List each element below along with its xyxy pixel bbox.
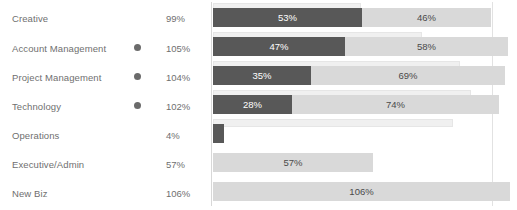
row-total-new-biz: 106% <box>166 189 190 199</box>
row-marker-dot-project-management <box>134 73 141 80</box>
bar-label-light-creative: 46% <box>362 8 491 27</box>
bar-segment-dark-operations[interactable] <box>213 124 224 143</box>
row-marker-dot-account-management <box>134 44 141 51</box>
bar-segment-light-technology[interactable]: 74% <box>292 95 499 114</box>
row-label-account-management: Account Management <box>12 44 106 54</box>
bar-segment-dark-project-management[interactable]: 35% <box>213 66 311 85</box>
track-bar-operations <box>213 119 453 127</box>
row-total-executive-admin: 57% <box>166 160 185 170</box>
row-marker-dot-technology <box>134 102 141 109</box>
bar-label-dark-technology: 28% <box>213 95 292 114</box>
bar-label-dark-creative: 53% <box>213 8 362 27</box>
row-total-account-management: 105% <box>166 44 190 54</box>
row-label-project-management: Project Management <box>12 73 101 83</box>
row-total-operations: 4% <box>166 131 180 141</box>
row-label-creative: Creative <box>12 14 48 24</box>
bar-label-dark-account-management: 47% <box>213 37 345 56</box>
bar-segment-light-new-biz[interactable]: 106% <box>213 182 510 201</box>
row-label-operations: Operations <box>12 131 59 141</box>
bar-segment-dark-creative[interactable]: 53% <box>213 8 362 27</box>
bar-label-dark-operations <box>213 124 224 143</box>
row-label-executive-admin: Executive/Admin <box>12 160 84 170</box>
row-total-project-management: 104% <box>166 73 190 83</box>
y-axis-line <box>211 2 212 206</box>
row-total-creative: 99% <box>166 14 185 24</box>
bar-segment-dark-account-management[interactable]: 47% <box>213 37 345 56</box>
bar-label-light-new-biz: 106% <box>213 182 510 201</box>
bar-segment-light-creative[interactable]: 46% <box>362 8 491 27</box>
row-label-new-biz: New Biz <box>12 189 48 199</box>
plot-area: 100% 53% 46% 47% 58% 35% 69% 28% <box>211 0 517 210</box>
bar-label-light-executive-admin: 57% <box>213 153 373 172</box>
bar-label-dark-project-management: 35% <box>213 66 311 85</box>
row-label-technology: Technology <box>12 102 61 112</box>
bar-label-light-account-management: 58% <box>345 37 508 56</box>
bar-segment-light-executive-admin[interactable]: 57% <box>213 153 373 172</box>
bar-chart-panel: Creative Account Management Project Mana… <box>0 0 517 210</box>
bar-segment-light-account-management[interactable]: 58% <box>345 37 508 56</box>
bar-label-light-technology: 74% <box>292 95 499 114</box>
row-total-technology: 102% <box>166 102 190 112</box>
bar-segment-dark-technology[interactable]: 28% <box>213 95 292 114</box>
bar-label-light-project-management: 69% <box>311 66 505 85</box>
bar-segment-light-project-management[interactable]: 69% <box>311 66 505 85</box>
